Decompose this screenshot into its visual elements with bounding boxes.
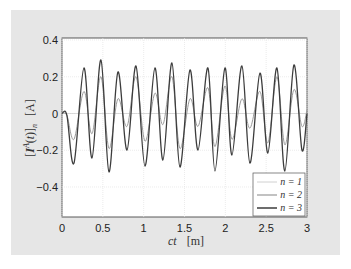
x-tick-label: 0.5 xyxy=(95,222,110,234)
x-tick-label: 1.5 xyxy=(177,222,192,234)
y-tick-label: −0.2 xyxy=(36,144,58,156)
x-tick-label: 3 xyxy=(304,222,310,234)
y-axis-ticks: 0.40.20−0.2−0.4 xyxy=(36,34,58,193)
x-axis-ticks: 00.511.522.53 xyxy=(59,222,310,234)
legend-label: n = 1 xyxy=(280,176,302,187)
y-tick-label: 0.2 xyxy=(43,71,58,83)
x-tick-label: 2 xyxy=(222,222,228,234)
x-tick-label: 1 xyxy=(141,222,147,234)
line-chart: 00.511.522.53 0.40.20−0.2−0.4 ct[m] [IA(… xyxy=(0,0,351,269)
y-tick-label: 0 xyxy=(52,108,58,120)
legend: n = 1n = 2n = 3 xyxy=(253,173,305,216)
y-axis-label: [IA(t)]n[A] xyxy=(22,99,39,157)
y-tick-label: −0.4 xyxy=(36,181,58,193)
x-tick-label: 0 xyxy=(59,222,65,234)
x-tick-label: 2.5 xyxy=(259,222,274,234)
legend-label: n = 3 xyxy=(280,202,302,213)
x-axis-label: ct[m] xyxy=(168,234,204,248)
y-tick-label: 0.4 xyxy=(43,34,58,46)
legend-label: n = 2 xyxy=(280,189,302,200)
